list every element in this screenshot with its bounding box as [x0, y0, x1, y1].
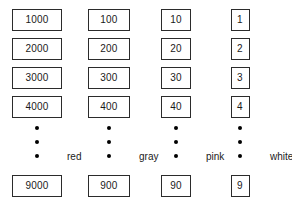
- ellipsis-dot: [238, 140, 242, 144]
- ellipsis-dots-ones: [234, 126, 246, 158]
- cell-ones-1: 1: [231, 9, 250, 31]
- cell-ones-2: 2: [231, 38, 250, 60]
- ellipsis-dot: [238, 126, 242, 130]
- cell-ones-4: 4: [231, 96, 250, 118]
- ellipsis-dot: [238, 154, 242, 158]
- cell-ones-last: 9: [231, 175, 250, 197]
- column-label-ones: white: [270, 152, 292, 162]
- number-columns-diagram: 1000200030004000red9000100200300400gray9…: [0, 0, 292, 210]
- column-ones: 1234white9: [0, 0, 292, 210]
- cell-ones-3: 3: [231, 67, 250, 89]
